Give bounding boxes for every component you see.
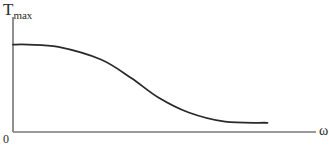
x-axis-label: ω	[319, 124, 328, 138]
y-axis-label-main: T	[3, 0, 13, 19]
chart-plot-area	[0, 0, 329, 146]
y-axis-label: Tmax	[3, 1, 32, 18]
chart: Tmax 0 ω	[0, 0, 329, 146]
origin-label: 0	[3, 133, 9, 145]
tmax-curve	[13, 44, 268, 122]
y-axis-label-subscript: max	[13, 9, 32, 21]
